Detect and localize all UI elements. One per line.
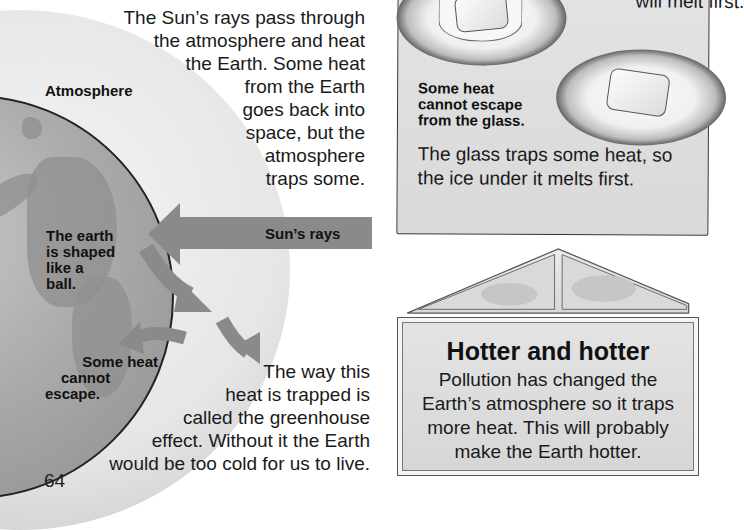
greenhouse-text-line: Pollution has changed the [398, 368, 698, 392]
earth-shape-line: ball. [46, 276, 115, 292]
greenhouse-text-line: more heat. This will probably [398, 416, 698, 440]
ice-cube-uncovered [605, 67, 670, 117]
outro-line: heat is trapped is [80, 383, 370, 406]
glass-label-line: cannot escape [418, 96, 525, 113]
greenhouse-text: Pollution has changed the Earth’s atmosp… [398, 368, 698, 464]
intro-line: The Sun’s rays pass through [110, 6, 365, 29]
ice-top-caption: will melt first. [636, 0, 744, 12]
page-number: 64 [44, 470, 65, 492]
greenhouse-text-line: make the Earth hotter. [398, 440, 698, 464]
ice-experiment-panel: will melt first. Some heat cannot escape… [396, 0, 709, 236]
ice-explanation-line: the ice under it melts first. [418, 166, 708, 192]
outro-line: would be too cold for us to live. [80, 452, 370, 475]
landmass-shape [22, 117, 42, 139]
ice-cube-under-glass [454, 0, 509, 33]
earth-shape-line: The earth [46, 228, 115, 244]
intro-line: from the Earth [110, 75, 365, 98]
intro-line: the Earth. Some heat [110, 52, 365, 75]
outro-line: The way this [80, 360, 370, 383]
greenhouse-title: Hotter and hotter [398, 336, 698, 366]
greenhouse-info-box: Hotter and hotter Pollution has changed … [397, 317, 699, 476]
intro-line: traps some. [110, 167, 365, 190]
heat-flow-arrows-icon [110, 240, 280, 370]
intro-line: atmosphere [110, 144, 365, 167]
ice-explanation: The glass traps some heat, so the ice un… [418, 142, 708, 192]
glass-label-line: from the glass. [418, 112, 525, 129]
outro-line: called the greenhouse [80, 406, 370, 429]
greenhouse-effect-paragraph: The way this heat is trapped is called t… [80, 360, 370, 475]
outro-line: effect. Without it the Earth [80, 429, 370, 452]
earth-shape-label: The earth is shaped like a ball. [46, 228, 115, 292]
glass-label: Some heat cannot escape from the glass. [418, 80, 525, 129]
intro-paragraph: The Sun’s rays pass through the atmosphe… [110, 6, 365, 190]
intro-line: space, but the [110, 121, 365, 144]
earth-shape-line: like a [46, 260, 115, 276]
glass-label-line: Some heat [418, 80, 525, 97]
earth-shape-line: is shaped [46, 244, 115, 260]
intro-line: goes back into [110, 98, 365, 121]
ice-explanation-line: The glass traps some heat, so [418, 142, 708, 168]
greenhouse-roof-illustration [397, 247, 697, 315]
greenhouse-text-line: Earth’s atmosphere so it traps [398, 392, 698, 416]
intro-line: the atmosphere and heat [110, 29, 365, 52]
